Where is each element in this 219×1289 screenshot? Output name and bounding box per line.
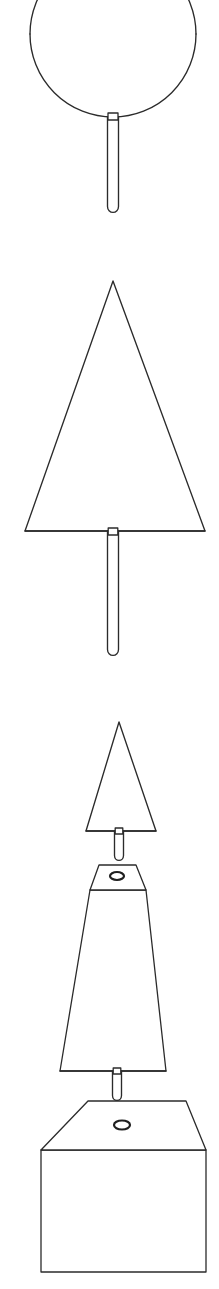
geometric-figure-svg: Geometric solids with stems Line drawing… <box>0 0 219 1289</box>
circle-stem-top-mask <box>108 113 118 120</box>
frustum-top-hole <box>110 872 124 880</box>
cube-front-face <box>41 1150 206 1272</box>
triangle-stem-top-mask <box>108 528 118 535</box>
cube-top-hole <box>114 1121 130 1130</box>
small-triangle-stem-top-mask <box>115 828 123 834</box>
frustum-stem-top-mask <box>113 1068 121 1074</box>
figure-container: Geometric solids with stems Line drawing… <box>0 0 219 1289</box>
figure-background <box>0 0 219 1289</box>
object-cube-box <box>41 1101 206 1272</box>
